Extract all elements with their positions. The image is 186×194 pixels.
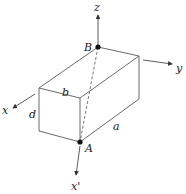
box-diagram: z y x x' B A a b d — [0, 0, 186, 194]
label-d: d — [29, 108, 36, 121]
label-x-prime: x' — [71, 180, 80, 193]
point-B — [95, 44, 100, 49]
front-face — [39, 88, 80, 142]
x-prime-axis — [76, 146, 80, 175]
label-z: z — [93, 1, 100, 14]
label-a: a — [113, 120, 120, 133]
label-A: A — [84, 142, 93, 155]
label-b: b — [62, 86, 69, 99]
label-x: x — [2, 104, 9, 117]
point-A — [77, 139, 82, 144]
x-axis — [13, 94, 35, 108]
label-y: y — [175, 62, 183, 75]
y-axis — [143, 60, 172, 64]
label-B: B — [83, 41, 92, 54]
box-edges — [39, 47, 139, 142]
diagonal-AB — [80, 47, 98, 142]
